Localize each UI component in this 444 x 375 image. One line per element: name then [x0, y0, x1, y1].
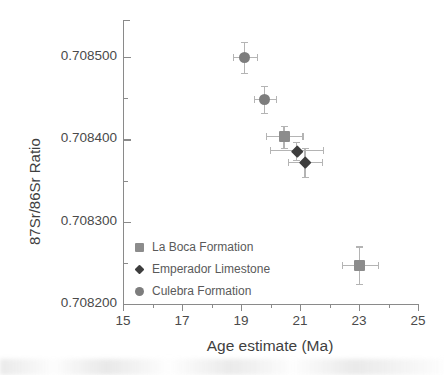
x-tick-label: 17	[170, 313, 194, 328]
y-tick-major	[124, 57, 131, 58]
legend-label: Culebra Formation	[152, 284, 251, 298]
legend-marker-diamond-icon	[133, 263, 145, 275]
y-tick-label: 0.708200	[19, 295, 117, 310]
legend-symbol	[135, 243, 144, 252]
error-cap-right	[302, 133, 303, 140]
error-cap-left	[342, 262, 343, 269]
x-tick-minor	[330, 304, 331, 308]
y-tick-major	[124, 222, 131, 223]
x-tick-minor	[153, 304, 154, 308]
error-cap-right	[378, 262, 379, 269]
y-tick-top	[124, 20, 130, 21]
legend-item[interactable]: La Boca Formation	[133, 240, 253, 254]
y-tick-major	[124, 304, 131, 305]
error-cap-left	[233, 54, 234, 61]
x-axis-label: Age estimate (Ma)	[170, 337, 370, 355]
error-cap-top	[281, 126, 288, 127]
error-cap-right	[323, 147, 324, 154]
error-cap-right	[322, 159, 323, 166]
error-cap-bottom	[281, 148, 288, 149]
y-axis-label: 87Sr/86Sr Ratio	[26, 138, 43, 245]
x-tick-label: 15	[111, 313, 135, 328]
legend-symbol	[134, 264, 144, 274]
error-cap-top	[261, 86, 268, 87]
data-marker-square	[354, 260, 365, 271]
x-tick-major	[241, 304, 242, 311]
y-tick-minor	[124, 98, 128, 99]
x-tick-minor	[389, 304, 390, 308]
error-cap-right	[276, 96, 277, 103]
y-tick-minor	[124, 181, 128, 182]
error-cap-left	[266, 133, 267, 140]
data-marker-diamond	[299, 156, 311, 168]
error-cap-left	[254, 96, 255, 103]
error-cap-top	[302, 148, 309, 149]
y-tick-label: 0.708400	[19, 130, 117, 145]
data-marker-square	[279, 131, 290, 142]
legend-marker-circle-icon	[133, 285, 145, 297]
x-tick-label: 25	[406, 313, 430, 328]
x-tick-label: 21	[288, 313, 312, 328]
y-tick-major	[124, 139, 131, 140]
data-marker-circle	[239, 52, 250, 63]
error-cap-right	[257, 54, 258, 61]
x-tick-minor	[271, 304, 272, 308]
y-tick-label: 0.708300	[19, 213, 117, 228]
error-cap-bottom	[356, 284, 363, 285]
legend-item[interactable]: Culebra Formation	[133, 284, 251, 298]
error-cap-top	[241, 42, 248, 43]
strontium-ratio-scatter-chart: 87Sr/86Sr Ratio Age estimate (Ma) 151719…	[0, 0, 444, 375]
error-cap-top	[293, 142, 300, 143]
x-tick-label: 19	[229, 313, 253, 328]
x-tick-major	[359, 304, 360, 311]
error-cap-bottom	[241, 73, 248, 74]
x-tick-major	[300, 304, 301, 311]
data-marker-diamond	[291, 145, 303, 157]
legend-label: Emperador Limestone	[152, 262, 270, 276]
y-tick-minor	[124, 263, 128, 264]
data-marker-circle	[259, 94, 270, 105]
error-cap-top	[356, 246, 363, 247]
error-cap-bottom	[261, 113, 268, 114]
scan-artifact	[0, 359, 444, 375]
x-tick-major	[418, 304, 419, 311]
error-cap-bottom	[302, 177, 309, 178]
x-tick-major	[182, 304, 183, 311]
legend-symbol	[135, 287, 144, 296]
error-cap-left	[288, 159, 289, 166]
x-tick-minor	[212, 304, 213, 308]
y-tick-label: 0.708500	[19, 48, 117, 63]
error-cap-left	[270, 147, 271, 154]
legend-label: La Boca Formation	[152, 240, 253, 254]
legend-marker-square-icon	[133, 241, 145, 253]
x-tick-label: 23	[347, 313, 371, 328]
legend-item[interactable]: Emperador Limestone	[133, 262, 270, 276]
